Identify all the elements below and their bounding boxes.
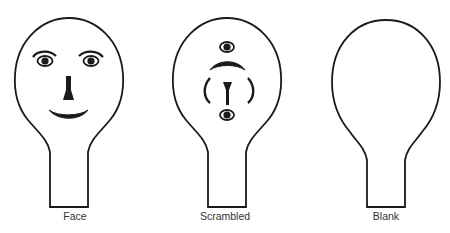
left-eye-icon (33, 52, 56, 66)
right-eye-icon (79, 52, 103, 66)
face-stimulus (0, 0, 150, 233)
scrambled-eye-top-icon (220, 42, 234, 52)
scrambled-brow-right-icon (248, 78, 253, 103)
figure-scrambled: Scrambled (150, 0, 300, 233)
scrambled-nose-icon (223, 82, 232, 105)
figure-blank: Blank (300, 0, 450, 233)
scrambled-eye-bottom-icon (220, 110, 234, 120)
scrambled-stimulus (150, 0, 300, 233)
scrambled-mouth-icon (210, 62, 245, 70)
nose-icon (63, 76, 74, 100)
mouth-icon (49, 110, 88, 118)
blank-stimulus (300, 0, 450, 233)
head-outline (332, 20, 440, 207)
figure-label-scrambled: Scrambled (150, 210, 300, 222)
figure-label-face: Face (0, 210, 150, 222)
figure-face: Face (0, 0, 150, 233)
figure-label-blank: Blank (311, 210, 450, 222)
scrambled-brow-left-icon (205, 78, 210, 103)
head-outline (15, 18, 123, 207)
